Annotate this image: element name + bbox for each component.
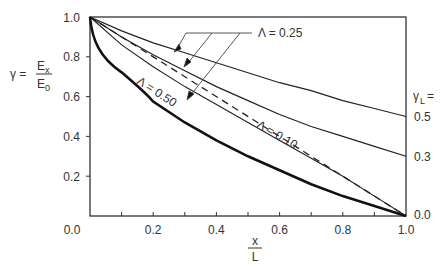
right-tick-label: 0.0 [414,208,431,222]
label-lambda-0.10: Λ = 0.10 [255,117,301,151]
chart: 1.0 0.8 0.6 0.4 0.2 0.0 0.2 0.4 0.6 0.8 … [0,0,443,269]
right-axis-label: γ L = [413,89,434,106]
svg-text:x: x [252,234,258,248]
label-lambda-0.25: Λ = 0.25 [258,26,303,40]
y-tick-label: 1.0 [63,11,80,25]
right-tick-label: 0.3 [414,150,431,164]
x-tick-label: 0.8 [334,223,351,237]
right-tick-label: 0.5 [414,110,431,124]
svg-text:E: E [37,77,45,91]
x-tick-label: 1.0 [398,223,415,237]
y-axis-label: γ = E x E 0 [10,59,52,93]
y-tick-label: 0.8 [63,50,80,64]
y-tick-label: 0.6 [63,90,80,104]
x-tick-label: 0.6 [271,223,288,237]
svg-text:γ =: γ = [10,67,26,81]
svg-text:0: 0 [45,83,50,93]
x-tick-label: 0.4 [208,223,225,237]
y-tick-label: 0.4 [63,130,80,144]
x-tick-label: 0.0 [64,223,81,237]
svg-text:γ: γ [413,89,419,103]
x-tick-label: 0.2 [145,223,162,237]
x-axis-label: x L [248,234,262,264]
annotation-lambda-0.25 [174,33,252,100]
svg-text:E: E [37,59,45,73]
svg-text:L: L [252,250,259,264]
curve-gammaL-0.5 [90,17,406,117]
y-tick-label: 0.2 [63,170,80,184]
svg-text:=: = [427,89,434,103]
svg-text:L: L [420,96,425,106]
